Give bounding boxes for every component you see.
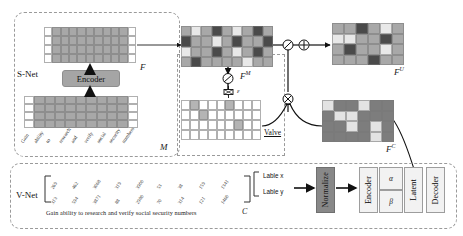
vnet-encoder-label: Encoder <box>364 176 373 204</box>
normalize-label: Normalize <box>321 172 330 208</box>
decoder-label: Decoder <box>431 176 440 205</box>
beta-label: β <box>389 197 393 206</box>
latent-label: Latent <box>409 179 418 201</box>
decoder-box[interactable]: Decoder <box>426 167 445 213</box>
alpha-box: α <box>379 167 403 190</box>
beta-box: β <box>379 190 403 213</box>
alpha-label: α <box>389 174 393 183</box>
vnet-encoder-box[interactable]: Encoder <box>359 167 378 213</box>
latent-box[interactable]: Latent <box>404 167 423 213</box>
normalize-box[interactable]: Normalize <box>316 167 335 213</box>
diagram-canvas: F S-Net Encoder M Gainabilitytoresearcha… <box>0 0 463 236</box>
